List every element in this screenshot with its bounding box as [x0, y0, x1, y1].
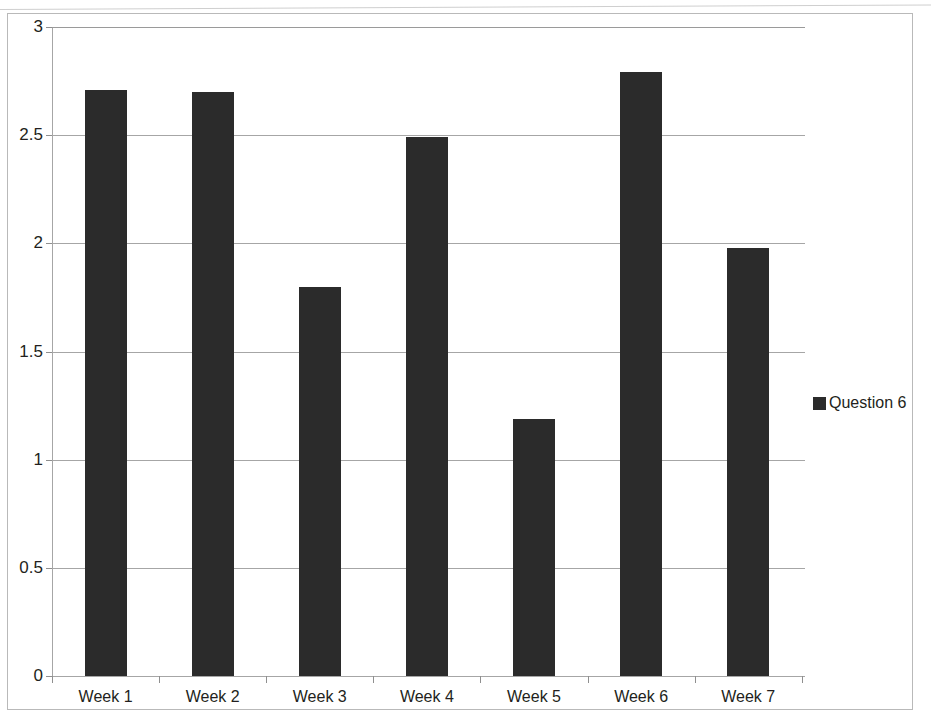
chart-legend: Question 6 [813, 394, 906, 412]
y-axis-label-1: 1 [34, 450, 43, 470]
bar-week-4 [406, 137, 448, 676]
x-axis-tick-2 [266, 676, 267, 683]
y-axis-tick-1.5 [46, 352, 52, 353]
x-axis-label-week-5: Week 5 [480, 688, 587, 706]
x-axis-tick-4 [480, 676, 481, 683]
plot-area: 00.511.522.53 [52, 27, 805, 676]
bar-week-7 [727, 248, 769, 676]
y-axis-tick-1 [46, 460, 52, 461]
bar-week-1 [85, 90, 127, 676]
x-axis-tick-5 [588, 676, 589, 683]
x-axis-label-week-6: Week 6 [588, 688, 695, 706]
y-axis-tick-2 [46, 243, 52, 244]
bar-week-3 [299, 287, 341, 676]
x-axis-tick-3 [373, 676, 374, 683]
y-axis-label-2: 2 [34, 233, 43, 253]
gridline-2.5 [52, 135, 805, 136]
y-axis-tick-3 [46, 27, 52, 28]
y-axis-tick-2.5 [46, 135, 52, 136]
legend-label-question-6: Question 6 [829, 394, 906, 412]
x-axis-label-week-4: Week 4 [373, 688, 480, 706]
bar-chart: 00.511.522.53 Week 1Week 2Week 3Week 4We… [0, 0, 931, 727]
bar-week-6 [620, 72, 662, 676]
y-axis-tick-0.5 [46, 568, 52, 569]
y-axis-label-3: 3 [34, 17, 43, 37]
x-axis-tick-7 [802, 676, 803, 683]
y-axis-label-1.5: 1.5 [19, 342, 43, 362]
x-axis-tick-0 [52, 676, 53, 683]
x-axis-label-week-1: Week 1 [52, 688, 159, 706]
x-axis-tick-1 [159, 676, 160, 683]
y-axis-label-0: 0 [34, 666, 43, 686]
bar-week-2 [192, 92, 234, 676]
x-axis-tick-6 [695, 676, 696, 683]
y-axis-label-0.5: 0.5 [19, 558, 43, 578]
gridline-3 [52, 27, 805, 28]
gridline-0 [52, 676, 805, 677]
legend-swatch-question-6 [813, 397, 826, 410]
bar-week-5 [513, 419, 555, 676]
y-axis-label-2.5: 2.5 [19, 125, 43, 145]
x-axis-label-week-2: Week 2 [159, 688, 266, 706]
x-axis-label-week-3: Week 3 [266, 688, 373, 706]
x-axis-label-week-7: Week 7 [695, 688, 802, 706]
